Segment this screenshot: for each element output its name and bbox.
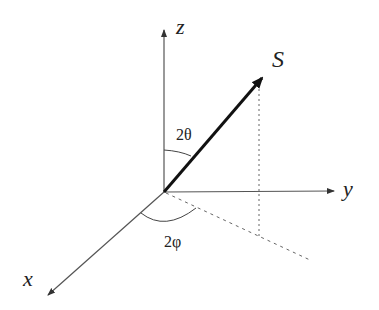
theta-arc xyxy=(164,150,191,156)
y-axis-label: y xyxy=(343,176,353,202)
phi-angle-label: 2φ xyxy=(164,233,181,251)
y-axis xyxy=(164,191,334,192)
x-axis xyxy=(48,192,164,295)
bloch-sphere-diagram: z S y x 2θ 2φ xyxy=(0,0,379,310)
projection-line xyxy=(166,193,310,260)
vector-s-label: S xyxy=(272,46,284,73)
theta-angle-label: 2θ xyxy=(176,126,192,144)
x-axis-label: x xyxy=(23,266,33,292)
phi-arc xyxy=(141,208,196,221)
z-axis-label: z xyxy=(176,14,185,40)
diagram-canvas xyxy=(0,0,379,310)
